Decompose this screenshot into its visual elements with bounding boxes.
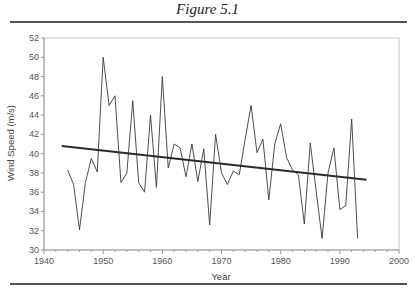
wind-speed-line (68, 57, 358, 238)
y-tick-label: 40 (29, 149, 39, 159)
line-chart: 303234363840424446485052 194019501960197… (0, 0, 415, 291)
x-axis-title: Year (211, 271, 230, 282)
plot-area-border (44, 38, 399, 250)
x-tick-label: 1940 (34, 256, 54, 266)
x-tick-label: 1970 (211, 256, 231, 266)
y-tick-label: 36 (29, 187, 39, 197)
x-tick-label: 1980 (271, 256, 291, 266)
y-tick-label: 34 (29, 206, 39, 216)
x-tick-label: 1950 (93, 256, 113, 266)
y-tick-label: 52 (29, 33, 39, 43)
y-axis-title: Wind Speed (m/s) (5, 105, 16, 181)
y-tick-label: 38 (29, 168, 39, 178)
y-tick-label: 44 (29, 110, 39, 120)
y-tick-label: 46 (29, 91, 39, 101)
y-tick-label: 42 (29, 129, 39, 139)
x-tick-label: 1990 (330, 256, 350, 266)
plot-frame (44, 38, 399, 250)
y-tick-label: 50 (29, 52, 39, 62)
y-tick-label: 32 (29, 226, 39, 236)
y-tick-label: 30 (29, 245, 39, 255)
y-axis: 303234363840424446485052 (29, 33, 44, 255)
data-series (62, 57, 367, 238)
y-tick-label: 48 (29, 72, 39, 82)
x-axis: 1940195019601970198019902000 (34, 250, 409, 266)
x-tick-label: 1960 (152, 256, 172, 266)
x-tick-label: 2000 (389, 256, 409, 266)
